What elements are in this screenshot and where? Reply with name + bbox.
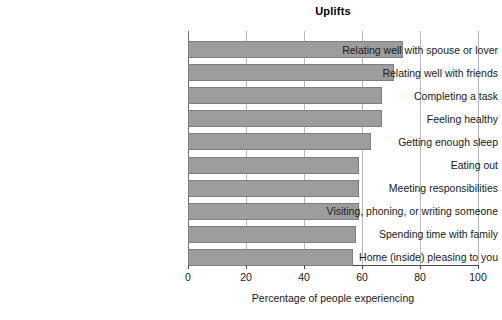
x-tick-20	[246, 265, 247, 269]
x-tick-80	[420, 265, 421, 269]
category-label: Getting enough sleep	[316, 136, 502, 148]
x-tick-label: 100	[458, 271, 498, 283]
category-label: Relating well with friends	[316, 67, 502, 79]
x-tick-0	[188, 265, 189, 269]
x-tick-label: 0	[168, 271, 208, 283]
bar-chart: Uplifts Percentage of people experiencin…	[0, 0, 502, 320]
chart-title: Uplifts	[188, 5, 478, 17]
x-tick-100	[478, 265, 479, 269]
x-tick-label: 80	[400, 271, 440, 283]
x-tick-label: 20	[226, 271, 266, 283]
category-label: Spending time with family	[316, 228, 502, 240]
category-label: Completing a task	[316, 90, 502, 102]
x-tick-label: 60	[342, 271, 382, 283]
category-label: Home (inside) pleasing to you	[316, 251, 502, 263]
x-axis-title: Percentage of people experiencing	[188, 292, 478, 304]
category-label: Meeting responsibilities	[316, 182, 502, 194]
category-label: Visiting, phoning, or writing someone	[316, 205, 502, 217]
x-tick-40	[304, 265, 305, 269]
x-tick-60	[362, 265, 363, 269]
category-label: Feeling healthy	[316, 113, 502, 125]
x-tick-label: 40	[284, 271, 324, 283]
category-label: Relating well with spouse or lover	[316, 44, 502, 56]
category-label: Eating out	[316, 159, 502, 171]
